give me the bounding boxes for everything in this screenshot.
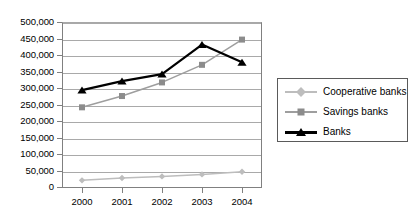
x-tick-label: 2002	[151, 196, 172, 207]
y-tick-mark	[57, 171, 62, 172]
y-tick-label: 500,000	[20, 17, 54, 27]
y-tick-label: 400,000	[20, 50, 54, 60]
gridline	[63, 40, 261, 41]
y-tick-label: 450,000	[20, 34, 54, 44]
triangle-marker-icon	[283, 123, 319, 141]
legend-item-savings-banks[interactable]: Savings banks	[278, 102, 407, 122]
legend-item-label: Savings banks	[323, 106, 388, 118]
y-tick-mark	[57, 72, 62, 73]
gridline	[63, 73, 261, 74]
gridline	[63, 23, 261, 24]
plot-area	[62, 22, 262, 188]
diamond-marker-icon	[283, 83, 319, 101]
x-tick-label: 2004	[231, 196, 252, 207]
gridline	[63, 56, 261, 57]
legend-item-banks[interactable]: Banks	[278, 122, 407, 142]
y-tick-label: 200,000	[20, 116, 54, 126]
y-tick-mark	[57, 138, 62, 139]
gridline	[63, 122, 261, 123]
legend-item-label: Banks	[323, 126, 351, 138]
y-tick-mark	[57, 39, 62, 40]
x-tick-label: 2001	[111, 196, 132, 207]
legend: Cooperative banks Savings banks Banks	[277, 78, 408, 142]
x-tick-mark	[242, 188, 243, 193]
gridline	[63, 172, 261, 173]
gridline	[63, 155, 261, 156]
y-tick-mark	[57, 187, 62, 188]
y-tick-mark	[57, 154, 62, 155]
legend-item-cooperative-banks[interactable]: Cooperative banks	[278, 82, 407, 102]
x-tick-label: 2000	[71, 196, 92, 207]
y-tick-label: 350,000	[20, 67, 54, 77]
y-tick-label: 50,000	[26, 166, 54, 176]
y-tick-mark	[57, 121, 62, 122]
y-tick-mark	[57, 55, 62, 56]
y-tick-label: 100,000	[20, 149, 54, 159]
x-tick-mark	[82, 188, 83, 193]
y-tick-mark	[57, 88, 62, 89]
y-tick-mark	[57, 105, 62, 106]
x-tick-mark	[162, 188, 163, 193]
x-tick-mark	[202, 188, 203, 193]
legend-item-label: Cooperative banks	[323, 86, 406, 98]
x-tick-mark	[122, 188, 123, 193]
y-tick-label: 250,000	[20, 100, 54, 110]
gridline	[63, 89, 261, 90]
x-tick-label: 2003	[191, 196, 212, 207]
square-marker-icon	[283, 103, 319, 121]
y-tick-label: 0	[49, 182, 54, 192]
y-axis: 500,000 450,000 400,000 350,000 300,000 …	[0, 0, 58, 218]
line-chart: 500,000 450,000 400,000 350,000 300,000 …	[0, 0, 415, 218]
y-tick-mark	[57, 22, 62, 23]
gridline	[63, 139, 261, 140]
y-tick-label: 150,000	[20, 133, 54, 143]
y-tick-label: 300,000	[20, 83, 54, 93]
gridline	[63, 106, 261, 107]
